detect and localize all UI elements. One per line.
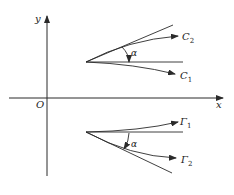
x-axis-label: x [216, 99, 222, 110]
upper-figure: α C2 C1 [86, 25, 194, 84]
curve-gamma1 [86, 122, 178, 132]
diagram-canvas: y x O α C2 C1 α Γ1 Γ2 [0, 0, 234, 195]
lower-angle-label: α [131, 139, 137, 149]
lower-figure: α Γ1 Γ2 [86, 116, 192, 173]
lower-angle-arc [124, 133, 129, 149]
c2-label: C2 [182, 31, 194, 45]
curve-c1 [86, 62, 175, 74]
upper-angle-label: α [131, 48, 137, 58]
upper-tangent-line [86, 25, 173, 62]
y-axis-label: y [34, 13, 41, 24]
origin-label: O [36, 99, 44, 110]
gamma2-label: Γ2 [180, 154, 192, 168]
gamma1-label: Γ1 [179, 116, 191, 130]
c1-label: C1 [180, 70, 192, 84]
upper-angle-arc [122, 47, 129, 62]
